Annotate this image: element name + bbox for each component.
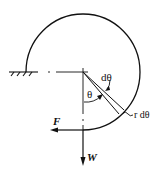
fixed-support xyxy=(9,72,38,76)
label-r-d-theta: r dθ xyxy=(134,109,150,120)
label-theta: θ xyxy=(87,88,92,100)
r-d-theta-leader xyxy=(123,112,133,116)
label-force-F: F xyxy=(52,115,61,127)
label-d-theta: dθ xyxy=(101,71,112,83)
force-F-arrowhead-icon xyxy=(50,128,58,133)
d-theta-arrowhead-icon xyxy=(105,86,110,91)
diagram-canvas: dθ θ r dθ F W xyxy=(0,0,168,179)
label-weight-W: W xyxy=(87,151,98,163)
weight-W-arrowhead-icon xyxy=(81,157,86,166)
